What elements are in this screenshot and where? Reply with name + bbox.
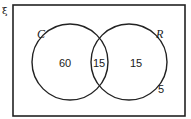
intersection-value: 15 — [93, 57, 105, 69]
set-c-label: C — [37, 27, 46, 41]
venn-diagram: ξ C R 60 15 15 5 — [0, 0, 191, 119]
set-r-label: R — [155, 27, 164, 41]
c-only-value: 60 — [59, 57, 71, 69]
universal-set-symbol: ξ — [2, 5, 8, 16]
r-only-value: 15 — [130, 57, 142, 69]
outside-value: 5 — [158, 83, 164, 95]
